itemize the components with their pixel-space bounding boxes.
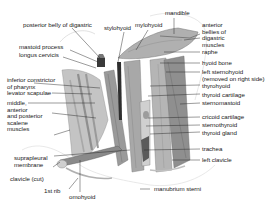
label-scalene-muscles: middle, anterior and posterior scalene m… <box>7 100 42 133</box>
label-mylohyoid: mylohyoid <box>135 22 162 29</box>
label-cricoid-cartilage: cricoid cartilage <box>202 114 244 121</box>
label-thyroid-cartilage: thyroid cartilage <box>202 92 245 99</box>
label-sternothyroid: sternothyroid <box>202 122 237 129</box>
label-clavicle-cut: clavicle (cut) <box>10 176 44 183</box>
label-trachea: trachea <box>202 146 222 153</box>
label-posterior-belly-digastric: posterior belly of digastric <box>23 22 92 29</box>
label-manubrium-sterni: manubrium sterni <box>154 186 201 193</box>
label-mastoid-process: mastoid process <box>19 44 63 51</box>
label-mandible: mandible <box>165 10 190 17</box>
label-omohyoid: omohyoid <box>69 194 95 201</box>
label-suprapleural-membrane: suprapleural membrane <box>14 155 47 168</box>
label-longus-cervicis: longus cervicis <box>19 52 59 59</box>
label-raphe: raphe <box>202 49 218 56</box>
label-left-clavicle: left clavicle <box>202 157 232 164</box>
neck-anatomy-diagram: posterior belly of digastric mastoid pro… <box>0 0 271 205</box>
label-left-sternohyoid: left sternohyoid (removed on right side) <box>202 69 264 82</box>
label-thyrohyoid: thyrohyoid <box>202 83 230 90</box>
label-hyoid-bone: hyoid bone <box>202 60 232 67</box>
label-anterior-bellies-digastric: anterior bellies of digastric muscles <box>202 22 226 48</box>
label-stylohyoid: stylohyoid <box>104 25 131 32</box>
mastoid-block <box>97 58 105 67</box>
label-thyroid-gland: thyroid gland <box>202 130 237 137</box>
label-first-rib: 1st rib <box>44 188 61 195</box>
label-sternomastoid: sternomastoid <box>202 100 240 107</box>
mylohyoid-shape <box>118 28 198 59</box>
label-levator-scapulae: levator scapulae <box>7 90 51 97</box>
